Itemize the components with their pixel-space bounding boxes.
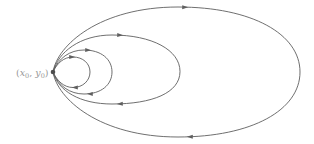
loop-4-outermost-direction-arrow — [187, 135, 193, 139]
loops-diagram: (x0, y0) — [0, 0, 314, 144]
loop-1-innermost-direction-arrow — [69, 55, 75, 59]
loop-4-outermost-direction-arrow — [182, 5, 188, 9]
figure-canvas: (x0, y0) — [0, 0, 314, 144]
label-text-part: ) — [45, 67, 49, 78]
loop-1-innermost-direction-arrow — [72, 86, 78, 90]
base-point-dot — [51, 70, 56, 75]
loop-2-direction-arrow — [85, 48, 91, 52]
loop-2-direction-arrow — [87, 92, 93, 96]
loop-3-path — [53, 35, 180, 104]
base-point-label: (x0, y0) — [16, 67, 49, 80]
loop-3-direction-arrow — [117, 33, 123, 37]
loop-3-direction-arrow — [117, 102, 123, 106]
